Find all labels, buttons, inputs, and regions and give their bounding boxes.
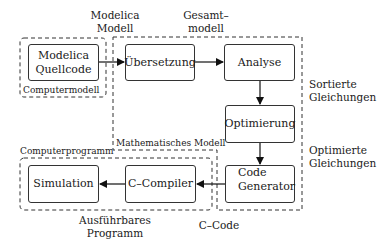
region-label-computermodell: Computermodell [23, 85, 99, 96]
region-label-mathematisches-modell: Mathematisches Modell [116, 138, 225, 149]
diagram-connectors [0, 0, 381, 243]
node-code-generator: Code Generator [225, 165, 295, 203]
label-line: Optimierte [309, 144, 376, 157]
node-label: Simulation [33, 177, 93, 191]
label-gesamtmodell: Gesamt– modell [176, 9, 236, 35]
label-line: modell [176, 22, 236, 35]
node-label: Optimierung [225, 117, 296, 131]
node-simulation: Simulation [28, 165, 99, 203]
node-analyse: Analyse [224, 44, 295, 81]
label-modelica-modell: Modelica Modell [80, 9, 150, 35]
label-optimierte-gleichungen: Optimierte Gleichungen [309, 144, 376, 170]
node-label: Quellcode [36, 63, 92, 77]
label-line: Sortierte [309, 78, 376, 91]
label-line: Gleichungen [309, 91, 376, 104]
label-line: Programm [70, 227, 160, 240]
node-optimierung: Optimierung [225, 105, 295, 143]
node-label: Analyse [238, 56, 281, 70]
node-label: C–Compiler [128, 177, 193, 191]
label-line: Gleichungen [309, 157, 376, 170]
region-label-computerprogramm: Computerprogramm [20, 146, 114, 157]
node-c-compiler: C–Compiler [125, 165, 196, 203]
label-line: Gesamt– [176, 9, 236, 22]
node-label: Generator [238, 180, 295, 194]
node-label: Übersetzung [124, 56, 196, 70]
label-sortierte-gleichungen: Sortierte Gleichungen [309, 78, 376, 104]
label-line: Modelica [80, 9, 150, 22]
node-uebersetzung: Übersetzung [125, 44, 195, 81]
node-label: Code [238, 166, 267, 180]
label-ausfuehrbares-programm: Ausführbares Programm [70, 214, 160, 240]
node-label: Modelica [38, 49, 89, 63]
label-line: Ausführbares [70, 214, 160, 227]
label-line: Modell [80, 22, 150, 35]
node-modelica-quellcode: Modelica Quellcode [28, 44, 99, 81]
label-c-code: C–Code [194, 219, 244, 232]
